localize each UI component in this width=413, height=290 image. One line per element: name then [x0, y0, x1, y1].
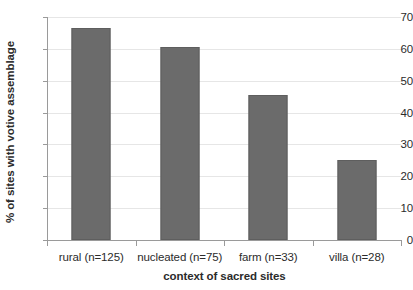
x-axis-tick-label: nucleated (n=75): [136, 249, 225, 265]
bar-slot: [224, 17, 313, 240]
bar-slot: [313, 17, 402, 240]
x-axis-tick-mark: [224, 241, 225, 246]
bar-series: [47, 17, 401, 240]
x-axis-tick-mark: [47, 241, 48, 246]
x-axis-tick-label: rural (n=125): [47, 249, 136, 265]
bar[interactable]: [160, 47, 199, 240]
x-axis-tick-mark: [401, 241, 402, 246]
bar-slot: [136, 17, 225, 240]
x-axis-tick-mark: [136, 241, 137, 246]
x-axis-tick-mark: [313, 241, 314, 246]
bar-slot: [47, 17, 136, 240]
x-axis-tick-label: farm (n=33): [224, 249, 313, 265]
y-axis-title: % of sites with votive assemblage: [2, 8, 18, 256]
bar[interactable]: [337, 160, 376, 240]
bar-chart: % of sites with votive assemblage 010203…: [0, 0, 413, 290]
x-axis-title: context of sacred sites: [47, 268, 402, 284]
x-axis-tick-label: villa (n=28): [313, 249, 402, 265]
bar[interactable]: [72, 28, 111, 240]
bar[interactable]: [249, 95, 288, 240]
